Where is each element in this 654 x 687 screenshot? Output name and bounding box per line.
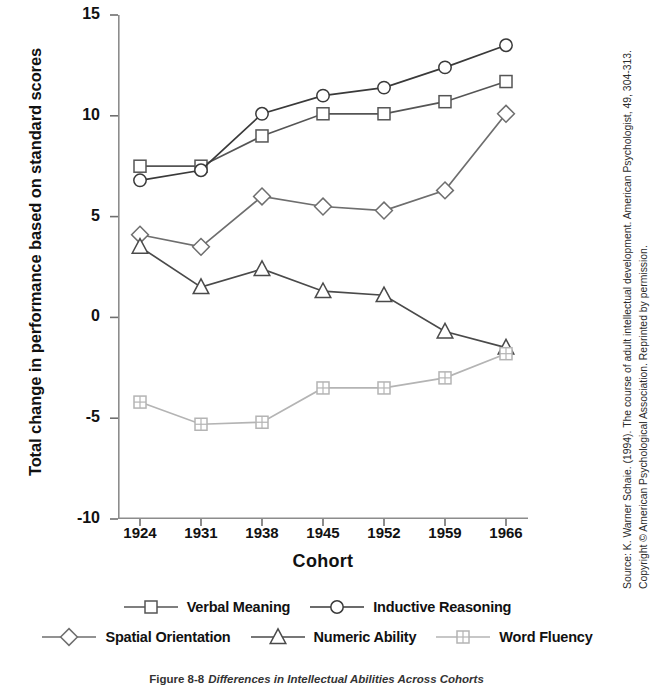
data-point-square — [500, 76, 512, 88]
legend-item-inductive-reasoning[interactable]: Inductive Reasoning — [308, 596, 511, 618]
legend-swatch-diamond — [40, 626, 98, 648]
legend-item-verbal-meaning[interactable]: Verbal Meaning — [122, 596, 291, 618]
data-point-diamond — [376, 202, 393, 219]
y-tick-label-10: 10 — [60, 107, 100, 123]
data-point-grid-square — [500, 348, 512, 360]
data-point-triangle — [315, 283, 331, 298]
data-point-square — [317, 108, 329, 120]
data-point-triangle — [270, 629, 286, 644]
data-point-grid-square — [134, 396, 146, 408]
legend-label: Spatial Orientation — [105, 629, 230, 645]
data-point-square — [256, 130, 268, 142]
figure-caption: Figure 8-8Differences in Intellectual Ab… — [0, 673, 633, 685]
y-tick-label-5: 5 — [60, 208, 100, 224]
data-point-square — [145, 601, 157, 613]
figure-caption-text: Differences in Intellectual Abilities Ac… — [208, 673, 484, 685]
data-point-triangle — [254, 261, 270, 276]
y-tick-label-0: 0 — [60, 308, 100, 324]
figure-number: Figure 8-8 — [149, 673, 204, 685]
data-point-grid-square — [195, 418, 207, 430]
y-axis-title: Total change in performance based on sta… — [26, 12, 56, 512]
data-point-square — [378, 108, 390, 120]
data-point-circle — [500, 39, 512, 51]
data-point-square — [134, 160, 146, 172]
data-point-circle — [134, 174, 146, 186]
x-tick-label-1938: 1938 — [230, 524, 294, 541]
data-point-circle — [256, 108, 268, 120]
series-word-fluency — [134, 348, 512, 431]
data-point-diamond — [437, 182, 454, 199]
data-point-square — [439, 96, 451, 108]
legend-swatch-circle — [308, 596, 366, 618]
legend-item-numeric-ability[interactable]: Numeric Ability — [249, 626, 417, 648]
legend-label: Numeric Ability — [314, 629, 417, 645]
y-tick-label--5: -5 — [60, 409, 100, 425]
data-point-circle — [439, 61, 451, 73]
data-point-circle — [378, 81, 390, 93]
y-tick-label-15: 15 — [60, 6, 100, 22]
x-tick-label-1959: 1959 — [413, 524, 477, 541]
data-point-triangle — [132, 239, 148, 254]
data-point-diamond — [498, 105, 515, 122]
data-point-grid-square — [317, 382, 329, 394]
data-point-grid-square — [457, 631, 469, 643]
legend-label: Inductive Reasoning — [373, 599, 511, 615]
legend-label: Word Fluency — [499, 629, 592, 645]
x-tick-label-1952: 1952 — [352, 524, 416, 541]
x-tick-label-1924: 1924 — [108, 524, 172, 541]
data-point-circle — [331, 601, 343, 613]
legend-swatch-square — [122, 596, 180, 618]
chart-svg — [118, 15, 528, 519]
legend-swatch-triangle — [249, 626, 307, 648]
y-tick-label--10: -10 — [60, 510, 100, 526]
legend-item-spatial-orientation[interactable]: Spatial Orientation — [40, 626, 230, 648]
legend-swatch-grid-square — [434, 626, 492, 648]
series-numeric-ability — [132, 239, 514, 354]
legend-row-1: Verbal MeaningInductive Reasoning — [0, 592, 633, 622]
data-point-triangle — [437, 323, 453, 338]
data-point-grid-square — [256, 416, 268, 428]
series-spatial-orientation — [132, 105, 515, 255]
data-point-circle — [317, 89, 329, 101]
data-point-grid-square — [439, 372, 451, 384]
chart-legend: Verbal MeaningInductive Reasoning Spatia… — [0, 592, 633, 652]
data-point-diamond — [315, 198, 332, 215]
x-tick-label-1945: 1945 — [291, 524, 355, 541]
x-axis-title: Cohort — [118, 551, 528, 572]
legend-row-2: Spatial OrientationNumeric AbilityWord F… — [0, 622, 633, 652]
legend-item-word-fluency[interactable]: Word Fluency — [434, 626, 592, 648]
legend-label: Verbal Meaning — [187, 599, 291, 615]
data-point-diamond — [61, 629, 78, 646]
x-tick-label-1966: 1966 — [474, 524, 538, 541]
x-tick-label-1931: 1931 — [169, 524, 233, 541]
data-point-grid-square — [378, 382, 390, 394]
series-line — [140, 114, 506, 247]
source-note: Source: K. Warner Schaie. (1994). The co… — [620, 29, 654, 589]
plot-area — [118, 15, 528, 519]
data-point-circle — [195, 164, 207, 176]
